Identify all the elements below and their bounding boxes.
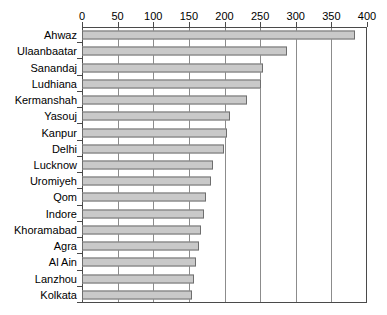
bar [82, 31, 355, 40]
category-label: Qom [53, 191, 77, 203]
bar [82, 177, 211, 186]
category-label: Ulaanbaatar [17, 45, 77, 57]
bar [82, 160, 213, 169]
bar [82, 242, 199, 251]
bar-row: Ludhiana [0, 76, 387, 92]
bar [82, 128, 227, 137]
bar-row: Qom [0, 189, 387, 205]
bar-row: Ulaanbaatar [0, 43, 387, 59]
bar [82, 274, 194, 283]
bar-row: Indore [0, 206, 387, 222]
bar-row: Kermanshah [0, 92, 387, 108]
category-label: Khoramabad [14, 224, 77, 236]
category-label: Lanzhou [35, 273, 77, 285]
y-tick-mark [77, 302, 82, 303]
category-label: Agra [54, 240, 77, 252]
bar-row: Khoramabad [0, 222, 387, 238]
bar [82, 63, 263, 72]
bar [82, 144, 224, 153]
bar [82, 96, 247, 105]
category-label: Sanandaj [31, 62, 78, 74]
category-label: Kermanshah [15, 94, 77, 106]
category-label: Yasouj [44, 110, 77, 122]
bar-row: Kanpur [0, 124, 387, 140]
category-label: Indore [46, 208, 77, 220]
bar-row: Sanandaj [0, 59, 387, 75]
bar-row: Agra [0, 238, 387, 254]
bar [82, 225, 201, 234]
bar-row: Lanzhou [0, 271, 387, 287]
category-label: Delhi [52, 143, 77, 155]
bar [82, 193, 206, 202]
bar-row: Ahwaz [0, 27, 387, 43]
bar [82, 258, 196, 267]
bar-row: Al Ain [0, 254, 387, 270]
category-label: Lucknow [34, 159, 77, 171]
bar [82, 79, 261, 88]
category-label: Ahwaz [44, 29, 77, 41]
bar [82, 47, 287, 56]
bar-rows: AhwazUlaanbaatarSanandajLudhianaKermansh… [0, 27, 387, 303]
bar [82, 112, 230, 121]
category-label: Ludhiana [32, 78, 77, 90]
bar-row: Kolkata [0, 287, 387, 303]
bar-row: Yasouj [0, 108, 387, 124]
category-label: Kanpur [42, 127, 77, 139]
category-label: Kolkata [40, 289, 77, 301]
category-label: Al Ain [49, 256, 77, 268]
bar [82, 209, 204, 218]
bar-row: Lucknow [0, 157, 387, 173]
bar-chart: 050100150200250300350400 AhwazUlaanbaata… [0, 0, 387, 315]
category-label: Uromiyeh [30, 175, 77, 187]
bar-row: Delhi [0, 141, 387, 157]
bar [82, 290, 192, 299]
bar-row: Uromiyeh [0, 173, 387, 189]
